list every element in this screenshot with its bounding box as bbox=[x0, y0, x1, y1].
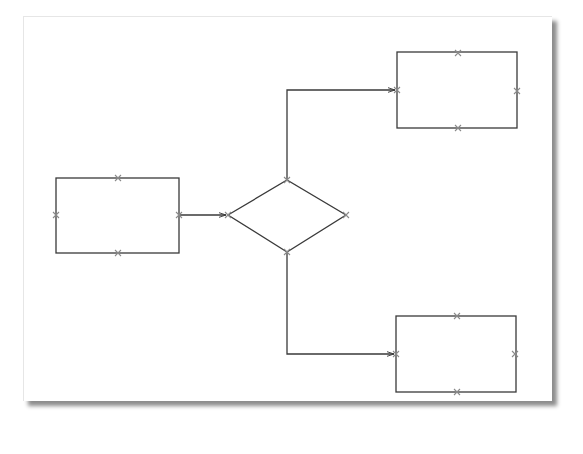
process-box-top-right[interactable] bbox=[397, 52, 517, 128]
connection-point-icon[interactable] bbox=[455, 50, 461, 56]
connection-point-icon[interactable] bbox=[343, 212, 349, 218]
connector-decision-to-top-right[interactable] bbox=[287, 90, 395, 180]
diagram-canvas bbox=[0, 0, 583, 454]
process-box-bottom-right[interactable] bbox=[396, 316, 516, 392]
decision-diamond[interactable] bbox=[228, 180, 346, 252]
process-box-left[interactable] bbox=[56, 178, 179, 253]
connection-point-icon[interactable] bbox=[512, 351, 518, 357]
connector-decision-to-bottom-right[interactable] bbox=[287, 252, 394, 354]
